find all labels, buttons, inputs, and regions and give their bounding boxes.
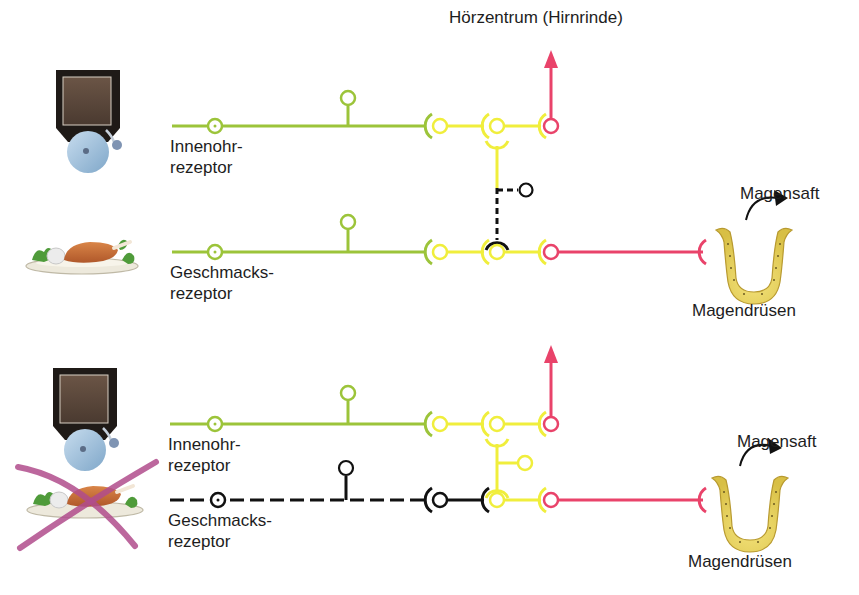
arrow-up-icon	[544, 345, 558, 363]
receptor-label-line1: Innenohr-	[170, 136, 243, 157]
reflex-conditioning-diagram: Hörzentrum (Hirnrinde) Innenohr- rezepto…	[0, 0, 859, 595]
bell-icon	[56, 70, 122, 173]
receptor-label-line2: rezeptor	[168, 531, 272, 552]
receptor-label-line1: Geschmacks-	[170, 262, 274, 283]
receptor-label-line1: Geschmacks-	[168, 510, 272, 531]
conditioned-link	[486, 184, 533, 251]
gland-label-top: Magendrüsen	[692, 301, 796, 321]
efferent-to-auditory-cortex-bottom	[544, 345, 558, 431]
gustatory-afferent-top	[172, 215, 432, 264]
auditory-afferent-bottom	[170, 386, 432, 436]
efferent-to-glands-top	[544, 240, 706, 264]
bell-icon	[53, 368, 119, 471]
gastric-gland-icon	[712, 438, 788, 552]
interneuron-bottom-1	[433, 412, 546, 498]
gland-label-bottom: Magendrüsen	[688, 552, 792, 572]
receptor-label-gustatory-top: Geschmacks- rezeptor	[170, 262, 274, 304]
gastric-gland-icon	[716, 190, 792, 304]
efferent-to-glands-bottom	[544, 488, 706, 512]
food-plate-icon	[26, 240, 138, 274]
auditory-afferent-top	[172, 91, 432, 138]
receptor-label-auditory-bottom: Innenohr- rezeptor	[168, 434, 241, 476]
receptor-label-line1: Innenohr-	[168, 434, 241, 455]
receptor-label-line2: rezeptor	[170, 157, 243, 178]
arrow-up-icon	[544, 50, 558, 68]
efferent-to-auditory-cortex-top	[544, 50, 558, 133]
secretion-label-top: Magensaft	[740, 184, 819, 204]
interneuron-top-1	[433, 114, 546, 188]
receptor-label-gustatory-bottom: Geschmacks- rezeptor	[168, 510, 272, 552]
secretion-label-bottom: Magensaft	[737, 432, 816, 452]
auditory-cortex-label: Hörzentrum (Hirnrinde)	[449, 8, 623, 28]
receptor-label-auditory-top: Innenohr- rezeptor	[170, 136, 243, 178]
receptor-label-line2: rezeptor	[170, 283, 274, 304]
receptor-label-line2: rezeptor	[168, 455, 241, 476]
